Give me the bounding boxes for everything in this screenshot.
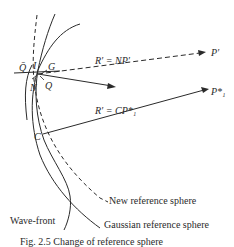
label-q: Q (45, 80, 53, 91)
arrow-ray-n (107, 83, 116, 89)
label-r-np: R′ = NP′ (94, 55, 131, 66)
label-c: C (34, 131, 41, 142)
label-n: N (29, 82, 38, 93)
figure-caption: Fig. 2.5 Change of reference sphere (20, 236, 163, 247)
wave-front-curve (36, 14, 71, 230)
tick-q (40, 76, 44, 80)
label-gaussian-reference-sphere: Gaussian reference sphere (104, 219, 210, 230)
arrow-p1-star (201, 87, 209, 93)
gaussian-reference-sphere-curve (32, 24, 100, 228)
label-wave-front: Wave-front (10, 215, 56, 226)
arrow-p-prime (198, 50, 206, 56)
label-r-cp: R′ = CP*₁ (94, 105, 136, 116)
label-p1-star: P*₁ (210, 86, 226, 97)
label-i: I (32, 60, 37, 71)
label-new-reference-sphere: New reference sphere (109, 195, 197, 206)
label-p-prime: P′ (210, 47, 220, 58)
label-g: G (48, 61, 55, 72)
label-q-bar: Q̄ (19, 62, 27, 73)
